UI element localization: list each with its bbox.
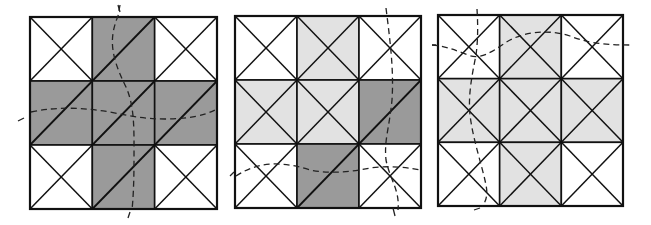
panel-2	[230, 8, 421, 216]
tile-dark-diag	[155, 81, 217, 145]
tile-white-x	[438, 142, 500, 206]
panel-1	[18, 5, 217, 218]
tile-dark-diag	[92, 81, 154, 145]
tile-white-x	[235, 144, 297, 208]
tile-white-x	[30, 17, 92, 81]
figure	[0, 0, 651, 225]
tile-white-x	[359, 144, 421, 208]
tile-white-x	[561, 142, 623, 206]
panel-3	[432, 9, 632, 210]
tile-light-x	[235, 80, 297, 144]
vertical-dashed-curve-end	[474, 208, 480, 210]
vertical-dashed-curve-end	[393, 208, 395, 216]
tile-light-x	[297, 16, 359, 80]
tile-white-x	[155, 17, 217, 81]
tile-white-x	[438, 15, 500, 79]
horizontal-dashed-curve-end	[18, 118, 24, 121]
tile-white-x	[235, 16, 297, 80]
tile-light-x	[500, 79, 562, 143]
tile-white-x	[155, 145, 217, 209]
tile-light-x	[438, 79, 500, 143]
tile-dark-diag	[92, 145, 154, 209]
tile-light-x	[500, 142, 562, 206]
tile-white-x	[30, 145, 92, 209]
tile-dark-diag	[297, 144, 359, 208]
horizontal-dashed-curve-end	[230, 172, 234, 176]
tile-dark-diag	[92, 17, 154, 81]
tiling-diagram	[0, 0, 651, 225]
tile-light-x	[500, 15, 562, 79]
tile-light-x	[297, 80, 359, 144]
tile-dark-diag	[30, 81, 92, 145]
tile-light-x	[561, 79, 623, 143]
tile-white-x	[561, 15, 623, 79]
